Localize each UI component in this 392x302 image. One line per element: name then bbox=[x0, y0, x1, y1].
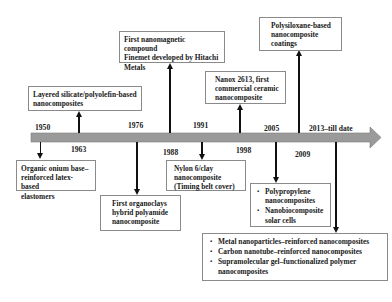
arrowhead-up-icon bbox=[76, 111, 82, 117]
event-text-line: (Timing belt cover) bbox=[174, 182, 241, 191]
connector-2013 bbox=[335, 142, 336, 227]
event-text-line: Nanox 2613, first bbox=[215, 75, 281, 84]
year-label-1963: 1963 bbox=[71, 145, 86, 154]
event-list-item: Nanobiocomposite solar cells bbox=[265, 206, 326, 224]
event-text-line: First organoclays bbox=[112, 199, 176, 208]
year-label-1991: 1991 bbox=[193, 121, 208, 130]
event-text-line: Polysiloxane-based bbox=[271, 21, 337, 30]
event-text-line: First nanomagnetic compound bbox=[124, 35, 220, 53]
event-list-item: Carbon nanotube–reinforced nanocomposite… bbox=[218, 247, 383, 256]
connector-1976 bbox=[136, 142, 137, 189]
arrowhead-down-icon bbox=[37, 153, 43, 159]
event-list-item: Supramolecular gel–functionalized polyme… bbox=[218, 257, 383, 275]
event-text-line: Finemet developed by Hitachi bbox=[124, 53, 220, 62]
event-text-line: nanocomposite bbox=[215, 93, 281, 102]
event-text-line: coatings bbox=[271, 39, 337, 48]
event-list-item: Metal nanoparticles–reinforced nanocompo… bbox=[218, 237, 383, 246]
event-text-line: Organic onium base– bbox=[21, 164, 91, 173]
year-label-1976: 1976 bbox=[128, 121, 143, 130]
event-text-line: nanocomposite bbox=[271, 30, 337, 39]
connector-1988 bbox=[169, 68, 170, 133]
event-text-line: reinforced latex-based bbox=[21, 173, 91, 191]
event-box-1950: Organic onium base– reinforced latex-bas… bbox=[16, 160, 96, 191]
event-text-line: commercial ceramic bbox=[215, 84, 281, 93]
year-label-1998: 1998 bbox=[236, 146, 251, 155]
event-list: Metal nanoparticles–reinforced nanocompo… bbox=[210, 237, 383, 276]
event-text-line: Nylon 6/clay bbox=[174, 164, 241, 173]
event-text-line: elastomers bbox=[21, 192, 91, 201]
arrowhead-up-icon bbox=[237, 104, 243, 110]
event-list: Polypropylene nanocomposites Nanobiocomp… bbox=[257, 187, 326, 225]
event-box-2005: Polypropylene nanocomposites Nanobiocomp… bbox=[250, 183, 331, 227]
connector-1998 bbox=[239, 110, 240, 133]
event-text-line: Layered silicate/polyolefin-based bbox=[33, 90, 137, 99]
event-box-1963: Layered silicate/polyolefin-based nanoco… bbox=[28, 86, 142, 111]
year-label-2005: 2005 bbox=[264, 124, 279, 133]
year-label-2013: 2013–till date bbox=[309, 124, 353, 133]
connector-1963 bbox=[78, 117, 79, 133]
connector-1991 bbox=[201, 142, 202, 154]
connector-2005 bbox=[275, 142, 276, 177]
event-text-line: nanocomposites bbox=[33, 99, 137, 108]
year-label-2009: 2009 bbox=[295, 150, 310, 159]
event-box-1991: Nylon 6/clay nanocomposite (Timing belt … bbox=[166, 160, 246, 191]
event-box-2009: Polysiloxane-based nanocomposite coating… bbox=[259, 17, 342, 51]
event-box-1976: First organoclays hybrid polyamide nanoc… bbox=[100, 195, 181, 231]
event-text-line: nanocomposite bbox=[174, 173, 241, 182]
event-text-line: hybrid polyamide bbox=[112, 208, 176, 217]
event-text-line: nanocomposite bbox=[112, 217, 176, 226]
connector-2009 bbox=[298, 56, 299, 133]
event-box-1998: Nanox 2613, first commercial ceramic nan… bbox=[205, 71, 286, 104]
year-label-1950: 1950 bbox=[35, 123, 50, 132]
event-box-1988: First nanomagnetic compound Finemet deve… bbox=[119, 31, 225, 63]
event-list-item: Polypropylene nanocomposites bbox=[265, 187, 326, 205]
year-label-1988: 1988 bbox=[163, 148, 178, 157]
event-box-2013: Metal nanoparticles–reinforced nanocompo… bbox=[202, 233, 388, 281]
